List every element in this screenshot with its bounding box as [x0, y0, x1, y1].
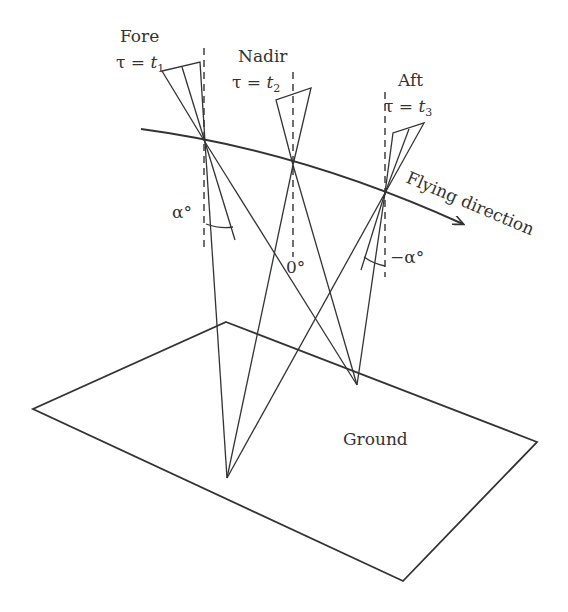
- aft-angle-label: −α°: [390, 247, 424, 267]
- aft-label: Aft: [397, 70, 423, 90]
- fore-ray-to-p1: [205, 142, 227, 478]
- aft-ray-to-p2: [357, 193, 385, 385]
- ground-label: Ground: [343, 429, 408, 449]
- stereo-imaging-diagram: Fore τ = t1 Nadir τ = t2 Aft τ = t3 α° 0…: [0, 0, 568, 612]
- flying-direction-label: Flying direction: [403, 167, 537, 239]
- nadir-label: Nadir: [238, 46, 288, 66]
- fore-angle-label: α°: [172, 202, 192, 222]
- nadir-ray-to-p1: [227, 165, 293, 478]
- fore-time-label: τ = t1: [116, 52, 164, 75]
- fore-sensor: [162, 48, 357, 478]
- ground-plane: [33, 322, 537, 581]
- aft-time-label: τ = t3: [384, 96, 432, 119]
- aft-sensor: [227, 92, 424, 478]
- nadir-time-label: τ = t2: [232, 72, 280, 95]
- fore-ray-to-p2: [205, 142, 357, 385]
- fore-label: Fore: [120, 26, 159, 46]
- nadir-angle-label: 0°: [286, 257, 305, 277]
